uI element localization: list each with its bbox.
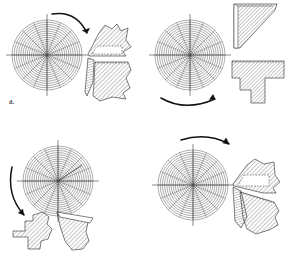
rotation-arrow-a [52,13,90,33]
panel-b: b [143,0,286,130]
fragment-tee-lower-b [232,61,284,103]
fragment-sliver-middle-a [85,58,94,96]
disc-b-axes [149,14,231,96]
disc-c [17,140,99,222]
fragment-triangle-upper-b [234,4,277,48]
rotation-arrow-d [181,137,229,144]
rotation-arrow-c [11,167,25,215]
fragment-wedge-lower-d [240,192,279,234]
disc-a [6,14,88,96]
fragment-wedge-upper-d [233,159,280,193]
fragment-wedge-upper-a [88,24,131,56]
panel-c: c [0,129,143,259]
disc-d-axes [152,144,234,226]
panel-label-a: a. [9,98,15,106]
panel-a: a. [0,0,143,130]
rotation-arrow-b [161,95,215,106]
panel-d: d [143,129,286,259]
fragment-stepped-left-c [13,212,52,249]
disc-b [149,14,231,96]
disc-a-axes [6,14,88,96]
figure-root: a. [0,0,286,259]
disc-d [152,144,234,226]
fragment-wedge-lower-a [93,62,131,101]
